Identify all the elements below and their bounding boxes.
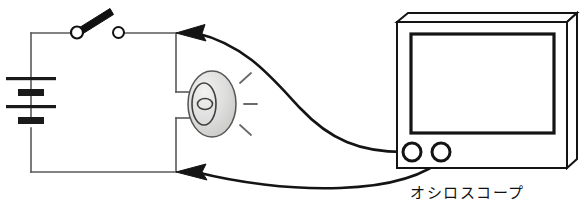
lamp-ray-lower: [240, 125, 251, 135]
circuit-diagram: オシロスコープ: [0, 0, 583, 206]
switch-contact-terminal: [113, 27, 124, 38]
lamp-symbol: [188, 71, 257, 137]
oscilloscope-terminal-left: [403, 143, 421, 161]
knife-switch[interactable]: [71, 9, 124, 39]
switch-hinge-terminal: [71, 27, 83, 39]
battery-plate-short-2: [18, 117, 44, 124]
battery-plate-long-2: [6, 105, 56, 108]
circuit-diagram-canvas: [0, 0, 583, 206]
probe-lead-upper-arrowhead: [176, 25, 206, 42]
oscilloscope-terminal-right: [432, 143, 450, 161]
lamp-light-rays: [240, 73, 257, 135]
probe-lead-lower-arrowhead: [176, 164, 207, 180]
oscilloscope-side-bevel: [567, 13, 577, 168]
oscilloscope-screen: [411, 34, 554, 133]
battery-plate-long-1: [6, 77, 56, 80]
circuit-wiring: [31, 33, 196, 172]
lamp-ray-upper: [240, 73, 251, 83]
oscilloscope-top-bevel: [397, 13, 577, 22]
oscilloscope-label: オシロスコープ: [410, 181, 525, 202]
oscilloscope[interactable]: [397, 13, 577, 168]
battery-plate-short-1: [18, 89, 44, 96]
battery-symbol: [6, 77, 56, 124]
